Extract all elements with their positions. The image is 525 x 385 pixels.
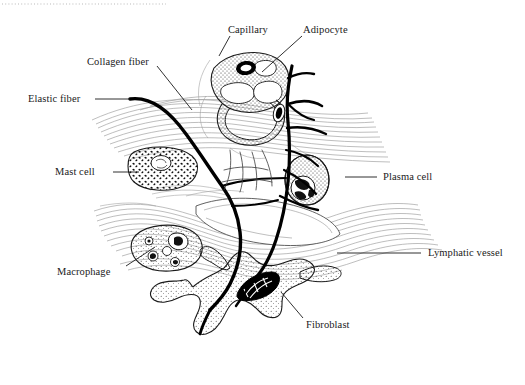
macrophage	[131, 225, 202, 271]
label-fibroblast: Fibroblast	[306, 319, 350, 330]
plasma-cell	[285, 155, 329, 205]
label-elastic-fiber: Elastic fiber	[28, 93, 80, 104]
mast-cell	[128, 147, 198, 190]
diagram-canvas: Collagen fiber Capillary Adipocyte Elast…	[0, 0, 525, 385]
histology-drawing	[0, 0, 525, 385]
label-adipocyte: Adipocyte	[303, 24, 348, 35]
label-capillary: Capillary	[228, 24, 268, 35]
label-plasma-cell: Plasma cell	[383, 171, 432, 182]
label-macrophage: Macrophage	[57, 266, 110, 277]
leader-fibroblast	[281, 292, 303, 318]
leader-capillary	[219, 36, 230, 56]
label-collagen-fiber: Collagen fiber	[87, 56, 149, 67]
label-mast-cell: Mast cell	[55, 166, 95, 177]
label-lymphatic-vessel: Lymphatic vessel	[428, 247, 503, 258]
leader-collagen-fiber	[157, 66, 192, 110]
